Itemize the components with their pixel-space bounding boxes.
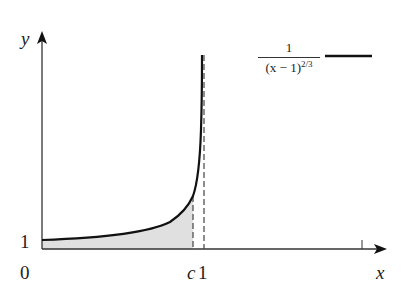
- origin-label: 0: [20, 263, 30, 282]
- x-tick-one: 1: [198, 263, 208, 282]
- legend-denominator-base: (x − 1): [265, 60, 301, 75]
- legend-formula: 1 (x − 1)2/3: [258, 40, 320, 76]
- function-curve: [42, 55, 202, 240]
- y-tick-one: 1: [20, 232, 30, 251]
- legend-numerator: 1: [258, 40, 320, 58]
- legend-exponent: 2/3: [301, 59, 313, 69]
- plot-canvas: [0, 0, 403, 300]
- x-tick-c: c: [187, 263, 195, 282]
- x-axis-label: x: [376, 263, 384, 282]
- legend-denominator: (x − 1)2/3: [258, 58, 320, 76]
- y-axis-label: y: [21, 29, 29, 48]
